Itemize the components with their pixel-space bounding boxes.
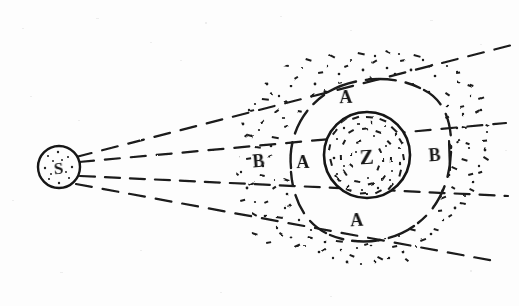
source-label: S: [53, 159, 64, 179]
zone-a-top-label: A: [339, 87, 353, 107]
zone-a-bottom-label: A: [350, 210, 364, 231]
astronomical-sketch-figure: S Z A A A B B: [0, 0, 519, 306]
zone-b-left-label: B: [252, 151, 266, 172]
zone-b-right-label: B: [428, 145, 441, 166]
core-label: Z: [359, 145, 374, 170]
diagram-canvas: S Z A A A B B: [0, 0, 519, 306]
right-b-tick-mark: [449, 141, 450, 170]
zone-a-left-label: A: [296, 152, 309, 172]
